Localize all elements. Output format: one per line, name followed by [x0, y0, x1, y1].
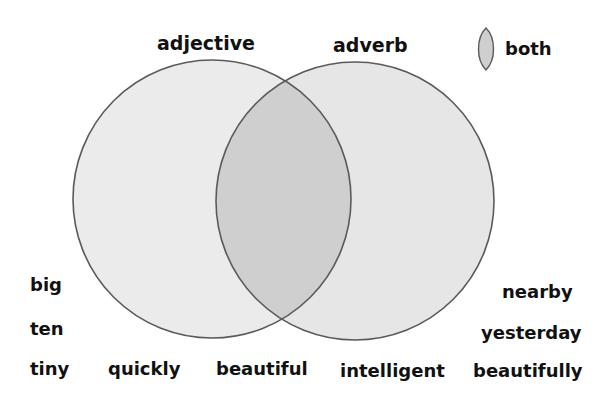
adjective-title: adjective — [157, 34, 255, 53]
word-tiny: tiny — [30, 360, 69, 378]
adverb-title: adverb — [333, 36, 408, 55]
word-big: big — [30, 276, 62, 294]
word-quickly: quickly — [108, 360, 180, 378]
word-yesterday: yesterday — [481, 324, 582, 342]
word-ten: ten — [30, 320, 64, 338]
lens-shape-icon — [479, 28, 494, 70]
word-beautiful: beautiful — [216, 360, 308, 378]
word-beautifully: beautifully — [473, 362, 583, 380]
word-nearby: nearby — [502, 283, 573, 301]
legend-both-label: both — [505, 40, 552, 58]
word-intelligent: intelligent — [340, 362, 445, 380]
